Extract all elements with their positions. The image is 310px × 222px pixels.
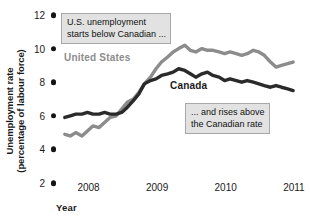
chart-container: Unemployment rate (percentage of labour … xyxy=(0,0,310,222)
annotation-callout-start-line1: U.S. unemployment xyxy=(67,17,166,29)
annotation-callout-rises: ... and rises above the Canadian rate xyxy=(185,103,270,134)
annotation-callout-rises-line1: ... and rises above xyxy=(191,107,265,119)
annotation-callout-rises-line2: the Canadian rate xyxy=(191,119,265,131)
annotation-callout-start: U.S. unemployment starts below Canadian … xyxy=(61,13,171,44)
series-label-canada: Canada xyxy=(170,80,207,91)
series-label-united-states: United States xyxy=(64,52,131,63)
annotation-callout-start-line2: starts below Canadian ... xyxy=(67,29,166,41)
